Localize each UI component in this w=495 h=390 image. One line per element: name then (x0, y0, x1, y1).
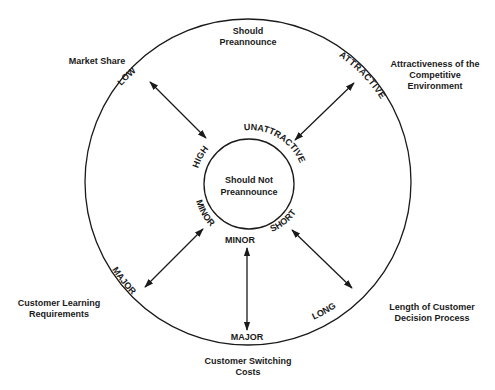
label-short: SHORT (268, 207, 298, 234)
factor-competitive-line2: Competitive (409, 70, 461, 80)
factor-decision-line2: Decision Process (394, 313, 469, 323)
label-attractive: ATTRACTIVE (338, 49, 388, 101)
inner-label-line1: Should Not (225, 175, 273, 185)
preannouncement-diagram: LOW ATTRACTIVE LONG MAJOR MAJOR HIGH UNA… (0, 0, 495, 390)
factor-competitive-line1: Attractiveness of the (390, 59, 479, 69)
outer-label-line2: Preannounce (219, 37, 276, 47)
outer-label-line1: Should (233, 26, 264, 36)
label-long: LONG (310, 301, 337, 322)
label-unattractive: UNATTRACTIVE (244, 122, 308, 164)
factor-market-share: Market Share (69, 56, 126, 66)
factor-competitive-line3: Environment (407, 81, 462, 91)
arrow-decision-process (292, 230, 352, 288)
arrow-learning-requirements (145, 229, 203, 287)
factor-learning-line1: Customer Learning (18, 298, 101, 308)
label-low: LOW (115, 65, 138, 87)
arrow-market-share (150, 82, 206, 138)
label-major-left: MAJOR (110, 265, 138, 297)
factor-learning-line2: Requirements (29, 309, 89, 319)
label-major-bottom: MAJOR (231, 332, 264, 342)
factor-switching-line2: Costs (235, 367, 260, 377)
label-minor-bottom: MINOR (225, 235, 255, 245)
arrow-competitive-environment (295, 83, 354, 140)
factor-decision-line1: Length of Customer (389, 302, 475, 312)
inner-label-line2: Preannounce (220, 187, 277, 197)
factor-switching-line1: Customer Switching (204, 356, 291, 366)
label-minor-left: MINOR (194, 198, 217, 228)
